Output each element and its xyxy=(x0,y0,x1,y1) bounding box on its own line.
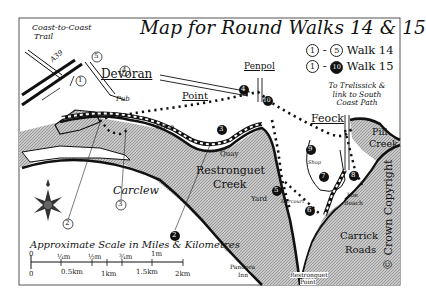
trelissick-note: To Trelissick & link to South Coast Path xyxy=(322,82,392,108)
waypoint-3: 3 xyxy=(118,201,122,208)
waypoint-filled-2: 2 xyxy=(172,232,176,239)
pandora-inn-label-1: Pandora xyxy=(230,264,255,270)
scale-mile-quarter: ¼m xyxy=(57,253,70,261)
yard-label: Yard xyxy=(251,196,267,203)
pub-label: Pub xyxy=(116,96,130,103)
legend-walk14-label: Walk 14 xyxy=(347,43,394,57)
legend-walk15: 1 - 10 Walk 15 xyxy=(306,60,393,74)
legend-walk15-label: Walk 15 xyxy=(347,59,394,73)
scale-mile-three-quarter: ¾m xyxy=(119,253,132,261)
legend-end-marker: 5 xyxy=(330,44,343,57)
scale-km-1-5: 1.5km xyxy=(136,268,158,276)
shop-label: Shop xyxy=(308,160,321,165)
waypoint-filled-3: 3 xyxy=(219,126,223,133)
carrick-roads-label-2: Roads xyxy=(345,245,376,255)
legend-start-marker: 1 xyxy=(306,60,319,73)
mine-label: Mine xyxy=(156,124,174,131)
waypoint-4: 4 xyxy=(122,67,126,74)
waypoint-filled-7: 7 xyxy=(321,173,325,180)
scale-km-half: 0.5km xyxy=(61,268,83,276)
place-devoran: Devoran xyxy=(101,68,152,80)
scale-mile-half: ½m xyxy=(88,253,101,261)
pandora-inn-label-2: Inn xyxy=(238,272,248,278)
waypoint-filled-5: 5 xyxy=(274,187,278,194)
harcourt-label: Harcourt xyxy=(281,199,304,204)
waypoint-filled-6: 6 xyxy=(307,207,311,214)
pill-creek-label-1: Pill xyxy=(372,127,388,137)
place-feock: Feock xyxy=(311,113,344,124)
scale-km-0: 0 xyxy=(29,270,33,278)
place-penpol: Penpol xyxy=(244,62,275,71)
trelissick-note-line3: Coast Path xyxy=(322,99,392,108)
loe-beach-label-2: Beach xyxy=(344,200,363,206)
restronguet-point-label-2: Point xyxy=(300,279,316,285)
legend-walk14: 1 - 5 Walk 14 xyxy=(306,44,393,57)
waypoint-filled-4: 4 xyxy=(241,86,245,93)
crown-copyright: © Crown Copyright xyxy=(382,160,395,270)
coast-to-coast-label: Coast-to-Coast xyxy=(32,24,92,32)
place-point: Point xyxy=(182,91,208,101)
scale-mile-1: 1m xyxy=(151,250,162,258)
restronguet-creek-label-2: Creek xyxy=(213,179,246,190)
scale-mile-0: 0 xyxy=(29,250,33,258)
scale-title: Approximate Scale in Miles & Kilometres xyxy=(30,240,240,250)
legend-start-marker: 1 xyxy=(306,44,319,57)
waypoint-filled-10: 10 xyxy=(263,97,271,103)
waypoint-2: 2 xyxy=(65,220,69,227)
legend-end-marker: 10 xyxy=(330,61,343,74)
scale-km-2: 2km xyxy=(175,270,190,278)
place-carclew: Carclew xyxy=(113,185,159,196)
waypoint-filled-8: 8 xyxy=(351,172,355,179)
quay-label: Quay xyxy=(220,151,238,158)
waypoint-5: 5 xyxy=(94,53,98,60)
pill-creek-label-2: Creek xyxy=(369,139,398,149)
carrick-roads-label-1: Carrick xyxy=(340,231,378,241)
loe-beach-label-1: Loe xyxy=(347,192,358,198)
scale-km-1: 1km xyxy=(101,270,116,278)
restronguet-creek-label-1: Restronguet xyxy=(196,165,265,176)
trail-label: Trail xyxy=(34,33,53,41)
waypoint-filled-9: 9 xyxy=(308,146,312,153)
waypoint-1: 1 xyxy=(78,77,82,84)
map-title: Map for Round Walks 14 & 15 xyxy=(140,19,426,38)
